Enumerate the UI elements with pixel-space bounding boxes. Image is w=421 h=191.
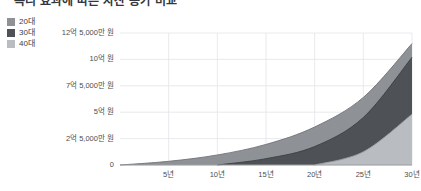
x-tick-label: 30년 xyxy=(404,171,419,179)
x-tick-label: 20년 xyxy=(307,171,322,179)
x-tick-label: 5년 xyxy=(163,171,174,179)
x-tick-label: 15년 xyxy=(258,171,273,179)
x-axis-labels: 5년10년15년20년25년30년 xyxy=(0,0,421,191)
chart-root: 복리 효과에 따른 자산 증가 비교 20대 30대 40대 02억 5,000… xyxy=(0,0,421,191)
x-tick-label: 25년 xyxy=(356,171,371,179)
x-tick-label: 10년 xyxy=(210,171,225,179)
plot-area: 02억 5,000만 원5억 원7억 5,000만 원10억 원12억 5,00… xyxy=(0,0,421,191)
